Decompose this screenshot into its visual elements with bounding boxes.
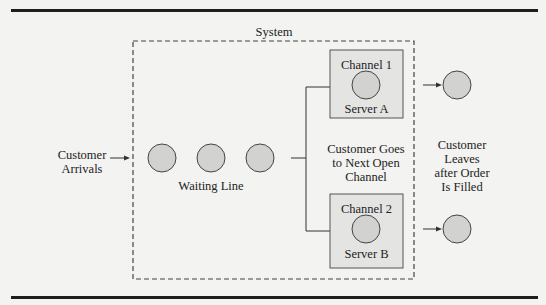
- routing-label-line1: Customer Goes: [320, 142, 412, 156]
- exit-arrow-2-icon: [423, 227, 442, 232]
- channel-2-title: Channel 2: [330, 202, 403, 216]
- departed-customer-1: [443, 71, 471, 99]
- departure-label-line1: Customer: [425, 138, 499, 152]
- arrivals-label: Customer Arrivals: [52, 148, 112, 176]
- departed-customer-2: [443, 215, 471, 243]
- channel-1-title: Channel 1: [330, 58, 403, 72]
- waiting-line-label: Waiting Line: [170, 179, 252, 193]
- server-a-label: Server A: [330, 102, 403, 116]
- routing-label: Customer Goes to Next Open Channel: [320, 142, 412, 184]
- waiting-customer-2: [197, 144, 225, 172]
- arrival-arrow-icon: [110, 156, 130, 161]
- server-a-circle: [352, 71, 380, 99]
- departure-label-line4: Is Filled: [425, 180, 499, 194]
- waiting-customer-3: [246, 144, 274, 172]
- departure-label: Customer Leaves after Order Is Filled: [425, 138, 499, 194]
- routing-label-line2: to Next Open: [320, 156, 412, 170]
- arrivals-label-line1: Customer: [52, 148, 112, 162]
- waiting-customer-1: [148, 144, 176, 172]
- server-b-label: Server B: [330, 247, 403, 261]
- arrivals-label-line2: Arrivals: [52, 162, 112, 176]
- system-label: System: [252, 25, 296, 39]
- departure-label-line3: after Order: [425, 166, 499, 180]
- server-b-circle: [352, 215, 380, 243]
- exit-arrow-1-icon: [423, 83, 442, 88]
- departure-label-line2: Leaves: [425, 152, 499, 166]
- routing-label-line3: Channel: [320, 170, 412, 184]
